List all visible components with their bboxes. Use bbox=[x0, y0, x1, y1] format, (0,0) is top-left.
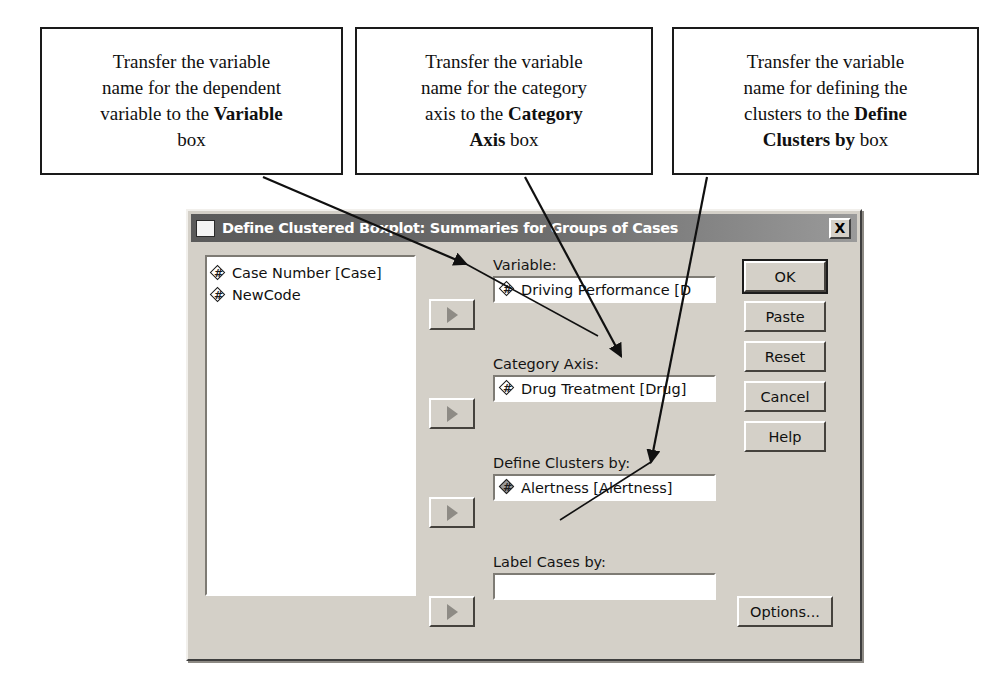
callout-variable-line2: name for the dependent bbox=[102, 77, 281, 98]
callout-category-line3-pre: axis to the bbox=[425, 103, 508, 124]
define-clusters-by-input[interactable]: # Alertness [Alertness] bbox=[493, 474, 716, 501]
scale-measure-icon: # bbox=[499, 281, 516, 298]
dialog-title: Define Clustered Boxplot: Summaries for … bbox=[222, 220, 829, 236]
variable-value: Driving Performance [D bbox=[521, 282, 691, 298]
category-axis-value: Drug Treatment [Drug] bbox=[521, 381, 686, 397]
callout-clusters-line4-bold: Clusters by bbox=[763, 129, 855, 150]
define-clusters-by-value: Alertness [Alertness] bbox=[521, 480, 672, 496]
list-item[interactable]: # NewCode bbox=[210, 284, 411, 306]
callout-define-clusters: Transfer the variable name for defining … bbox=[672, 27, 979, 175]
arrow-right-icon bbox=[447, 505, 458, 521]
callout-variable-line4: box bbox=[177, 129, 206, 150]
callout-clusters-line3-bold: Define bbox=[854, 103, 907, 124]
callout-category-line2: name for the category bbox=[421, 77, 587, 98]
variable-input[interactable]: # Driving Performance [D bbox=[493, 276, 716, 303]
callout-variable-line3-pre: variable to the bbox=[100, 103, 213, 124]
label-cases-by-label: Label Cases by: bbox=[493, 554, 716, 570]
field-group-category-axis: Category Axis: # Drug Treatment [Drug] bbox=[493, 356, 716, 402]
transfer-button-define-clusters-by[interactable] bbox=[429, 497, 475, 528]
field-group-label-cases-by: Label Cases by: bbox=[493, 554, 716, 600]
options-button[interactable]: Options... bbox=[737, 596, 833, 627]
variable-label: Variable: bbox=[493, 257, 716, 273]
help-button[interactable]: Help bbox=[744, 421, 826, 452]
callout-category-axis: Transfer the variable name for the categ… bbox=[355, 27, 653, 175]
callout-variable-line1: Transfer the variable bbox=[113, 51, 271, 72]
spss-define-clustered-boxplot-dialog: Define Clustered Boxplot: Summaries for … bbox=[186, 209, 862, 661]
callout-clusters-line2: name for defining the bbox=[743, 77, 907, 98]
callout-clusters-line1: Transfer the variable bbox=[747, 51, 905, 72]
label-cases-by-input[interactable] bbox=[493, 573, 716, 600]
ok-button[interactable]: OK bbox=[744, 261, 826, 292]
paste-button[interactable]: Paste bbox=[744, 301, 826, 332]
cancel-button[interactable]: Cancel bbox=[744, 381, 826, 412]
scale-measure-icon: # bbox=[499, 380, 516, 397]
define-clusters-by-label: Define Clusters by: bbox=[493, 455, 716, 471]
callout-category-line4-bold: Axis bbox=[469, 129, 505, 150]
transfer-button-variable[interactable] bbox=[429, 299, 475, 330]
callout-category-line3-bold: Category bbox=[508, 103, 583, 124]
category-axis-label: Category Axis: bbox=[493, 356, 716, 372]
arrow-right-icon bbox=[447, 604, 458, 620]
list-item-label: NewCode bbox=[232, 287, 301, 303]
list-item-label: Case Number [Case] bbox=[232, 265, 382, 281]
field-group-define-clusters-by: Define Clusters by: # Alertness [Alertne… bbox=[493, 455, 716, 501]
window-icon bbox=[196, 220, 215, 237]
list-item[interactable]: # Case Number [Case] bbox=[210, 262, 411, 284]
close-icon[interactable]: X bbox=[829, 218, 851, 239]
scale-measure-icon: # bbox=[210, 287, 227, 304]
scale-measure-icon: # bbox=[210, 265, 227, 282]
callout-variable-line3-bold: Variable bbox=[214, 103, 283, 124]
reset-button[interactable]: Reset bbox=[744, 341, 826, 372]
transfer-button-label-cases-by[interactable] bbox=[429, 596, 475, 627]
arrow-right-icon bbox=[447, 307, 458, 323]
callout-clusters-line3-pre: clusters to the bbox=[744, 103, 854, 124]
scale-measure-icon: # bbox=[499, 479, 516, 496]
source-variable-list[interactable]: # Case Number [Case] # NewCode bbox=[205, 255, 416, 596]
arrow-right-icon bbox=[447, 406, 458, 422]
transfer-button-category-axis[interactable] bbox=[429, 398, 475, 429]
callout-variable: Transfer the variable name for the depen… bbox=[40, 27, 343, 175]
dialog-titlebar[interactable]: Define Clustered Boxplot: Summaries for … bbox=[191, 214, 857, 242]
field-group-variable: Variable: # Driving Performance [D bbox=[493, 257, 716, 303]
callout-category-line1: Transfer the variable bbox=[425, 51, 583, 72]
category-axis-input[interactable]: # Drug Treatment [Drug] bbox=[493, 375, 716, 402]
callout-category-line4-post: box bbox=[505, 129, 538, 150]
callout-clusters-line4-post: box bbox=[855, 129, 888, 150]
